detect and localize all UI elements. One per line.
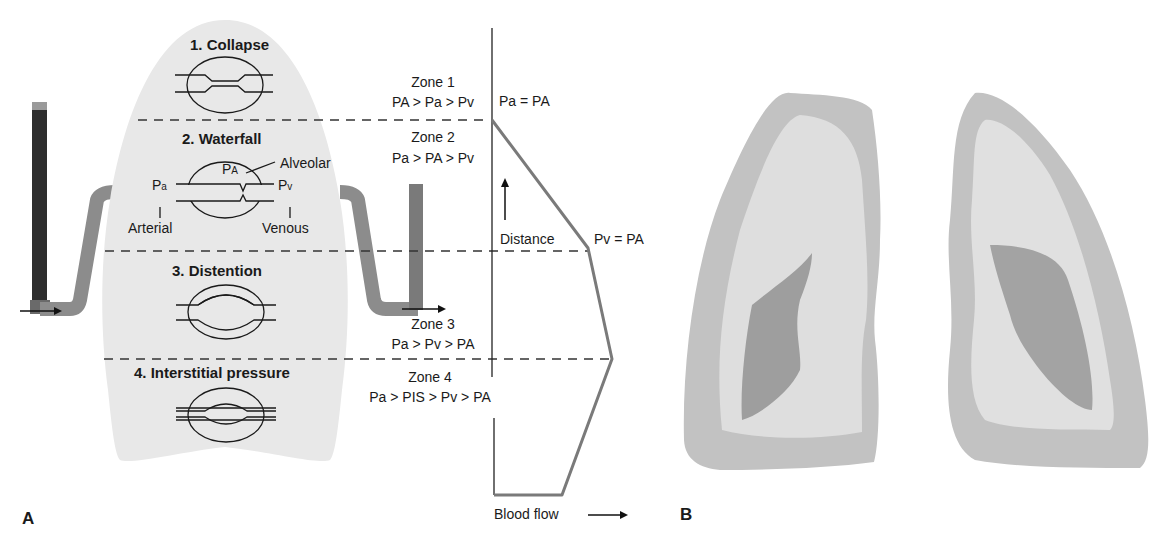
venous-manometer	[409, 184, 423, 310]
zone-2-name: Zone 2	[378, 129, 488, 145]
zone-3-relation: Pa > Pv > PA	[378, 336, 488, 352]
zone-1-name: Zone 1	[378, 74, 488, 90]
zone-4-name: Zone 4	[350, 369, 510, 385]
blood-flow-curve	[492, 120, 612, 495]
panel-label-a: A	[22, 509, 34, 529]
venous-pressure-label: Pv	[278, 177, 292, 193]
panel-label-b: B	[680, 505, 692, 525]
condition-title-collapse: 1. Collapse	[190, 36, 269, 53]
graph-mid-marker: Pv = PA	[594, 231, 644, 247]
alveolar-label: Alveolar	[280, 155, 331, 171]
arterial-pressure-label: Pa	[152, 177, 167, 193]
distance-arrow-icon	[501, 178, 509, 187]
graph-top-marker: Pa = PA	[499, 93, 550, 109]
zone-1-relation: PA > Pa > Pv	[378, 94, 488, 110]
venous-label: Venous	[262, 220, 309, 236]
distance-axis-label: Distance	[500, 231, 554, 247]
lung-right-b	[948, 93, 1148, 468]
arterial-manometer	[30, 102, 50, 314]
condition-title-waterfall: 2. Waterfall	[182, 130, 261, 147]
blood-flow-axis-label: Blood flow	[494, 506, 559, 522]
zone-4-relation: Pa > PIS > Pv > PA	[350, 389, 510, 405]
zone-3-name: Zone 3	[378, 316, 488, 332]
condition-title-interstitial: 4. Interstitial pressure	[134, 364, 290, 381]
condition-title-distention: 3. Distention	[172, 262, 262, 279]
alveolar-pressure-label: PA	[222, 161, 238, 177]
zone-2-relation: Pa > PA > Pv	[378, 150, 488, 166]
lung-left-b	[684, 93, 881, 470]
arterial-label: Arterial	[128, 220, 172, 236]
blood-flow-arrow-icon	[620, 511, 628, 519]
